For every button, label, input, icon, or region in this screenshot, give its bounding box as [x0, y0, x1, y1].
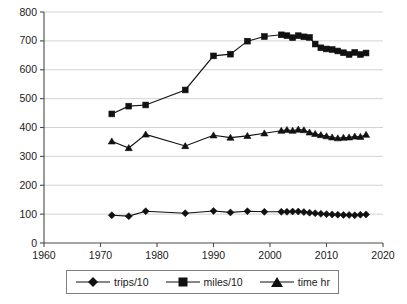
- legend-label-miles: miles/10: [204, 276, 243, 288]
- series-time-hr: [108, 126, 369, 151]
- x-tick-label: 1980: [145, 249, 169, 261]
- legend-swatch-diamond-icon: [75, 275, 111, 289]
- x-tick-label: 1990: [202, 249, 226, 261]
- series-trips-: [108, 207, 369, 219]
- data-point-marker: [295, 33, 301, 39]
- y-tick-label: 700: [19, 34, 37, 46]
- data-point-marker: [211, 53, 217, 59]
- y-tick-label: 500: [19, 92, 37, 104]
- data-point-marker: [125, 213, 132, 220]
- data-point-marker: [109, 111, 115, 117]
- legend-item-trips: trips/10: [75, 275, 148, 289]
- data-series-group: [108, 32, 369, 220]
- x-tick-label: 2000: [258, 249, 282, 261]
- legend-item-time: time hr: [259, 275, 330, 289]
- data-point-marker: [290, 35, 296, 41]
- gridlines-group: [44, 12, 383, 214]
- legend-swatch-triangle-icon: [259, 275, 295, 289]
- data-point-marker: [284, 33, 290, 39]
- data-point-marker: [363, 50, 369, 56]
- data-point-marker: [261, 34, 267, 40]
- data-point-marker: [108, 138, 115, 144]
- chart-svg: 0100200300400500600700800 19601970198019…: [0, 0, 407, 268]
- data-point-marker: [142, 131, 149, 137]
- data-point-marker: [143, 102, 149, 108]
- data-point-marker: [210, 132, 217, 138]
- data-point-marker: [182, 87, 188, 93]
- data-point-marker: [362, 131, 369, 137]
- y-axis-tick-labels: 0100200300400500600700800: [19, 6, 37, 249]
- data-point-marker: [307, 35, 313, 41]
- x-tick-label: 1960: [32, 249, 56, 261]
- y-tick-label: 300: [19, 150, 37, 162]
- data-point-marker: [352, 50, 358, 56]
- chart-container: 0100200300400500600700800 19601970198019…: [0, 0, 407, 304]
- data-point-marker: [324, 46, 330, 52]
- data-point-marker: [227, 209, 234, 216]
- data-point-marker: [126, 103, 132, 109]
- data-point-marker: [244, 208, 251, 215]
- data-point-marker: [278, 32, 284, 38]
- x-tick-label: 2010: [315, 249, 339, 261]
- legend-label-trips: trips/10: [114, 276, 148, 288]
- data-point-marker: [182, 210, 189, 217]
- x-tick-label: 2020: [371, 249, 395, 261]
- y-tick-label: 0: [31, 237, 37, 249]
- y-tick-label: 800: [19, 6, 37, 18]
- data-point-marker: [210, 207, 217, 214]
- plot-area: 0100200300400500600700800 19601970198019…: [0, 0, 407, 268]
- data-point-marker: [329, 47, 335, 53]
- legend-swatch-square-icon: [165, 275, 201, 289]
- y-tick-label: 600: [19, 63, 37, 75]
- series-miles-: [109, 32, 369, 117]
- x-axis-tick-labels: 1960197019801990200020102020: [32, 249, 395, 261]
- x-tick-label: 1970: [89, 249, 113, 261]
- data-point-marker: [363, 211, 370, 218]
- data-point-marker: [335, 48, 341, 54]
- y-tick-label: 200: [19, 179, 37, 191]
- data-point-marker: [228, 51, 234, 57]
- legend-item-miles: miles/10: [165, 275, 243, 289]
- data-point-marker: [312, 41, 318, 47]
- legend-label-time: time hr: [298, 276, 330, 288]
- y-tick-label: 100: [19, 208, 37, 220]
- data-point-marker: [245, 38, 251, 44]
- data-point-marker: [142, 208, 149, 215]
- data-point-marker: [346, 52, 352, 58]
- data-point-marker: [318, 45, 324, 51]
- data-point-marker: [295, 126, 302, 132]
- data-point-marker: [108, 212, 115, 219]
- chart-legend: trips/10 miles/10 time hr: [66, 270, 339, 294]
- data-point-marker: [341, 50, 347, 56]
- data-point-marker: [358, 52, 364, 58]
- y-tick-label: 400: [19, 121, 37, 133]
- data-point-marker: [301, 34, 307, 40]
